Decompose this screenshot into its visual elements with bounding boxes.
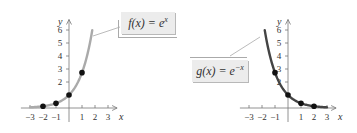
x-axis-label: x <box>118 111 124 122</box>
y-tick-label: 6 <box>58 25 63 35</box>
x-tick-label: 3 <box>106 112 111 122</box>
data-point <box>285 92 291 98</box>
exponential-graphs: −3−2−112323456xy−3−2−112323456xy <box>0 0 357 133</box>
data-point <box>272 70 278 76</box>
x-tick-label: −1 <box>270 112 280 122</box>
g-label-frame <box>190 57 247 58</box>
graph-g: −3−2−112323456xy <box>240 16 343 123</box>
y-axis-label: y <box>57 16 63 27</box>
data-point <box>53 100 59 106</box>
data-point <box>40 103 46 109</box>
f-label-frame <box>118 20 177 38</box>
g-leader-line <box>230 37 260 56</box>
x-tick-label: −2 <box>38 112 48 122</box>
y-tick-label: 3 <box>58 64 63 74</box>
f-label-box: f(x) = ex <box>121 12 175 34</box>
y-tick-label: 5 <box>277 38 282 48</box>
y-tick-label: 5 <box>58 38 63 48</box>
y-tick-label: 4 <box>58 51 63 61</box>
y-tick-label: 6 <box>277 25 282 35</box>
y-tick-label: 2 <box>58 77 63 87</box>
data-point <box>66 92 72 98</box>
x-tick-label: 2 <box>312 112 317 122</box>
y-axis-label: y <box>276 16 282 27</box>
function-curve <box>265 30 327 107</box>
g-label-text: g(x) = e−x <box>196 63 244 79</box>
x-tick-label: 3 <box>325 112 330 122</box>
f-leader-line <box>93 27 120 36</box>
data-point <box>298 100 304 106</box>
x-tick-label: 1 <box>299 112 304 122</box>
x-tick-label: 1 <box>80 112 85 122</box>
x-tick-label: −3 <box>244 112 254 122</box>
x-tick-label: 2 <box>93 112 98 122</box>
y-tick-label: 4 <box>277 51 282 61</box>
g-label-box: g(x) = e−x <box>192 60 248 82</box>
x-tick-label: −3 <box>25 112 35 122</box>
x-tick-label: −1 <box>51 112 61 122</box>
data-point <box>311 103 317 109</box>
data-point <box>79 70 85 76</box>
graph-f: −3−2−112323456xy <box>21 16 124 123</box>
x-tick-label: −2 <box>257 112 267 122</box>
x-axis-label: x <box>337 111 343 122</box>
